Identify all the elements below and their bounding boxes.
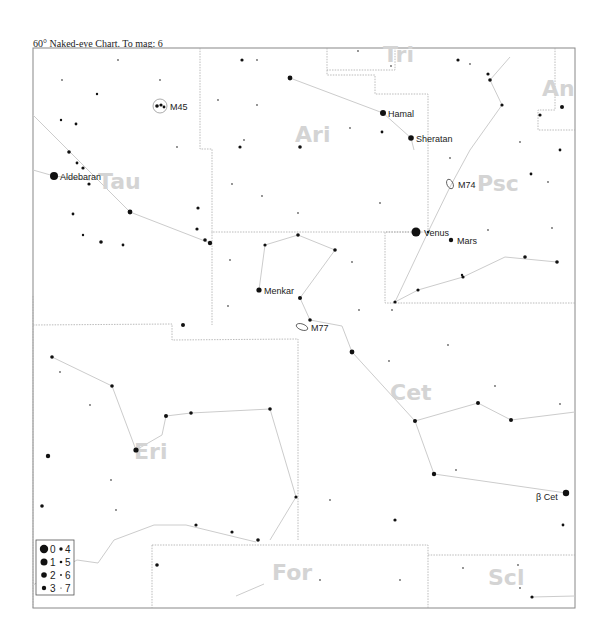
svg-text:6: 6 xyxy=(65,570,71,581)
label-beta-cet: β Cet xyxy=(536,492,558,502)
label-m45: M45 xyxy=(170,102,188,112)
svg-text:1: 1 xyxy=(50,557,56,568)
label-menkar: Menkar xyxy=(264,286,294,296)
svg-text:2: 2 xyxy=(50,570,56,581)
label-ari: Ari xyxy=(295,122,330,147)
label-m77: M77 xyxy=(311,323,329,333)
label-scl: Scl xyxy=(488,565,524,590)
label-cet: Cet xyxy=(390,380,432,405)
label-and: An xyxy=(542,76,575,101)
magnitude-legend: 0 4 1 5 2 6 3 7 xyxy=(36,540,74,595)
label-aldebaran: Aldebaran xyxy=(60,172,101,182)
label-venus: Venus xyxy=(424,228,450,238)
label-tau: Tau xyxy=(98,169,141,194)
star-chart[interactable]: Tri An Ari Tau Psc Cet Eri For Scl xyxy=(0,0,606,640)
label-sheratan: Sheratan xyxy=(416,134,453,144)
svg-text:7: 7 xyxy=(65,583,71,594)
label-hamal: Hamal xyxy=(388,109,414,119)
label-for: For xyxy=(272,560,312,585)
label-mars: Mars xyxy=(457,236,477,246)
svg-text:4: 4 xyxy=(65,544,71,555)
label-eri: Eri xyxy=(134,439,167,464)
venus-icon xyxy=(412,228,421,237)
svg-text:5: 5 xyxy=(65,557,71,568)
svg-text:0: 0 xyxy=(50,544,56,555)
label-psc: Psc xyxy=(477,171,519,196)
star-aldebaran xyxy=(50,172,58,180)
label-tri: Tri xyxy=(383,42,414,67)
svg-text:3: 3 xyxy=(50,583,56,594)
label-m74: M74 xyxy=(458,180,476,190)
planet-mars xyxy=(449,238,453,242)
